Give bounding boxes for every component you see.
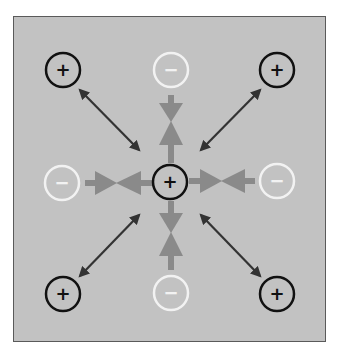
positive-charge-bottom-left: +	[46, 277, 80, 311]
svg-text:+: +	[55, 283, 70, 304]
attraction-arrow-top	[159, 95, 183, 163]
charge-diagram: + + + + + − − −	[0, 0, 338, 359]
negative-charge-top: −	[154, 53, 188, 87]
repulsion-arrow-top-right	[201, 90, 260, 150]
repulsion-arrow-bottom-right	[201, 215, 260, 276]
negative-charge-bottom: −	[154, 276, 188, 310]
attraction-arrow-left	[85, 171, 152, 195]
svg-text:+: +	[269, 59, 284, 80]
negative-charge-right: −	[260, 164, 294, 198]
positive-charge-center: +	[153, 165, 187, 199]
svg-text:+: +	[162, 171, 177, 192]
positive-charge-top-left: +	[46, 53, 80, 87]
svg-text:+: +	[269, 283, 284, 304]
attraction-arrow-bottom	[159, 201, 183, 270]
svg-text:−: −	[54, 172, 69, 193]
positive-charge-top-right: +	[260, 53, 294, 87]
repulsion-arrow-top-left	[80, 90, 139, 150]
positive-charge-bottom-right: +	[260, 277, 294, 311]
svg-text:−: −	[163, 282, 178, 303]
svg-text:+: +	[55, 59, 70, 80]
repulsion-arrow-bottom-left	[80, 215, 139, 276]
svg-text:−: −	[269, 170, 284, 191]
attraction-arrow-right	[189, 169, 255, 193]
negative-charge-left: −	[45, 166, 79, 200]
svg-text:−: −	[163, 59, 178, 80]
